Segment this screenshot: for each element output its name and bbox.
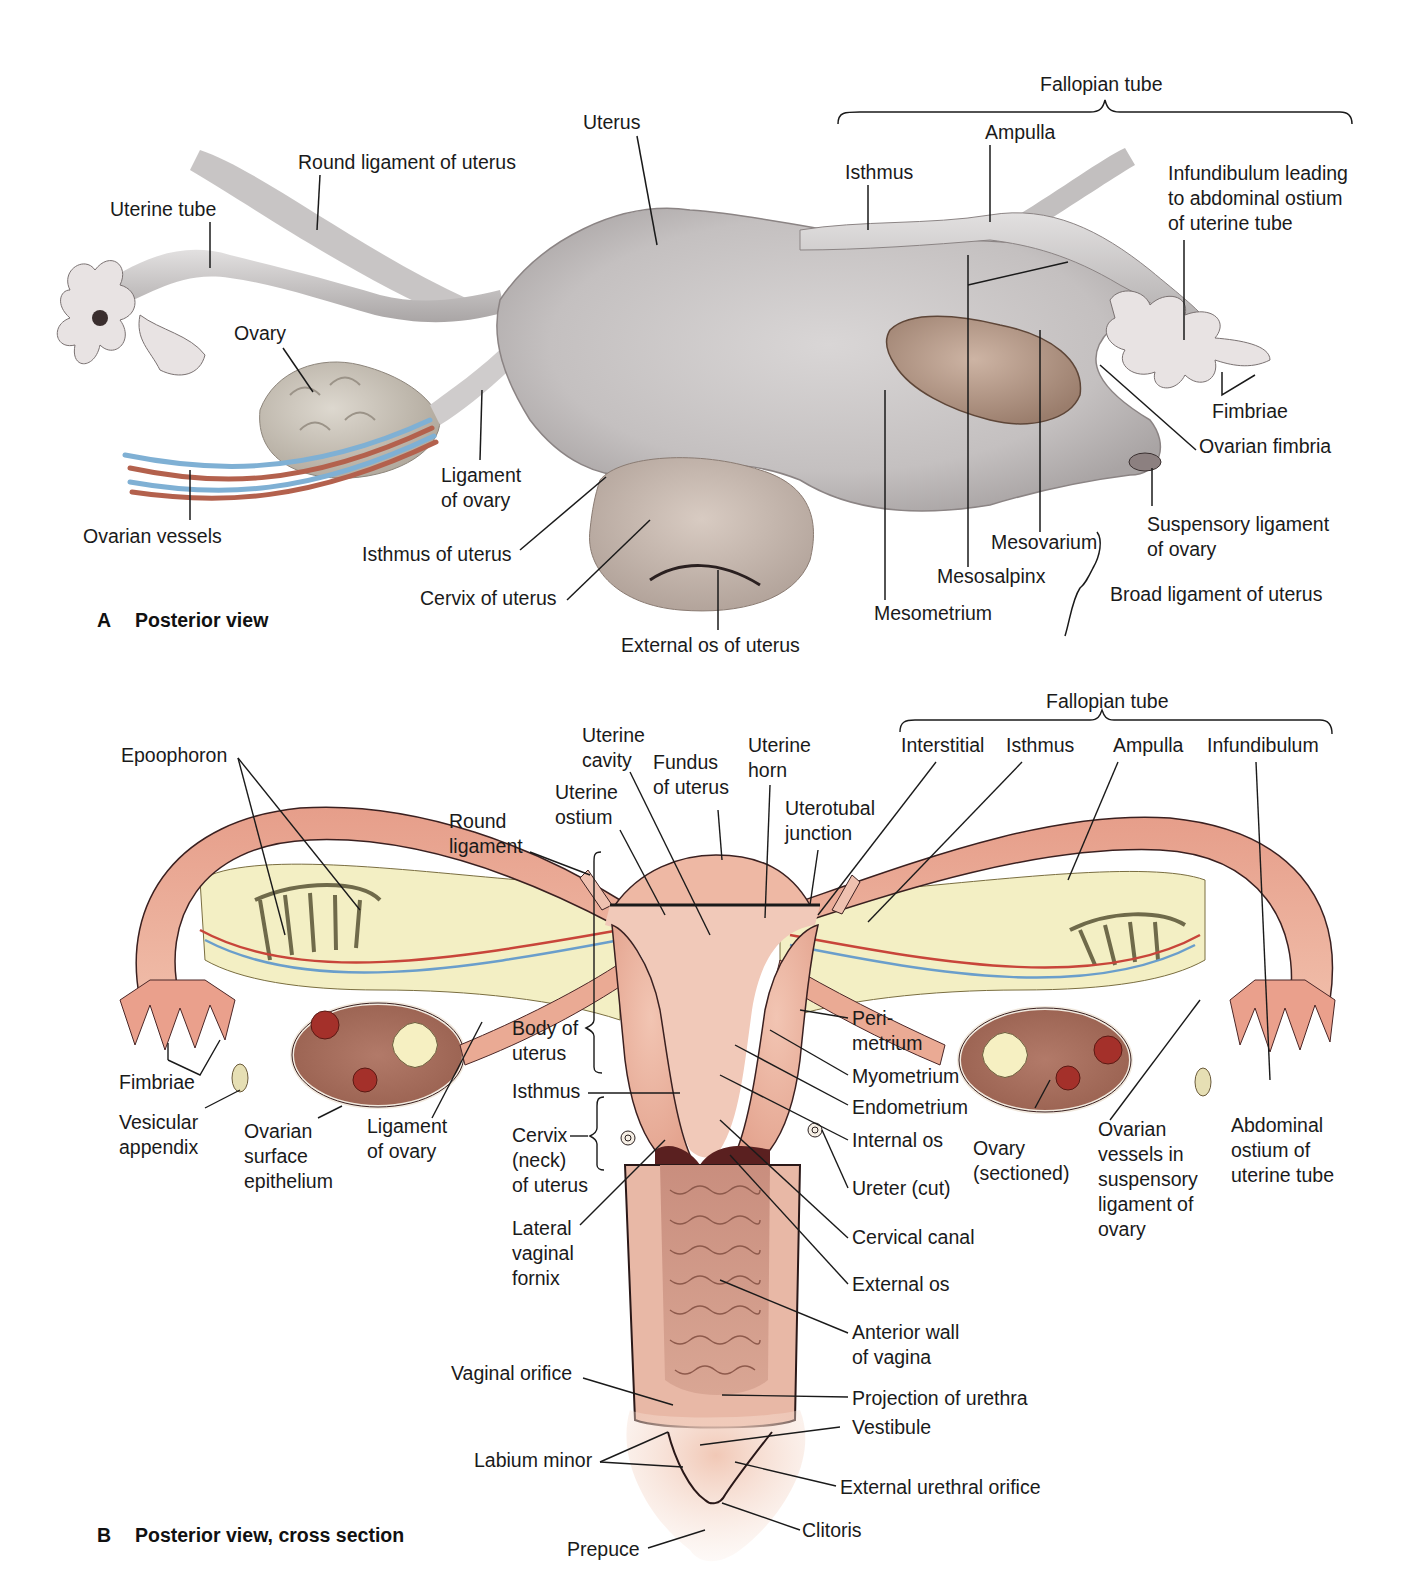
label-ovarian-surface-epithelium: Ovarian surface epithelium [244, 1119, 333, 1194]
label-cervical-canal: Cervical canal [852, 1225, 974, 1250]
label-uterotubal-junction: Uterotubal junction [785, 796, 875, 846]
label-isthmus-of-uterus: Isthmus of uterus [362, 542, 512, 567]
panel-a-letter: A [97, 609, 135, 632]
panel-a-title-text: Posterior view [135, 609, 268, 631]
label-mesosalpinx: Mesosalpinx [937, 564, 1045, 589]
label-uterine-ostium: Uterine ostium [555, 780, 618, 830]
label-anterior-wall-vagina: Anterior wall of vagina [852, 1320, 959, 1370]
label-clitoris: Clitoris [802, 1518, 862, 1543]
label-isthmus-tube-b: Isthmus [1006, 733, 1074, 758]
label-cervix: Cervix (neck) of uterus [512, 1123, 588, 1198]
label-ovarian-fimbria: Ovarian fimbria [1199, 434, 1331, 459]
panel-a-title: APosterior view [97, 609, 268, 632]
label-ovarian-vessels-a: Ovarian vessels [83, 524, 222, 549]
label-lateral-vaginal-fornix: Lateral vaginal fornix [512, 1216, 574, 1291]
label-external-urethral-orifice: External urethral orifice [840, 1475, 1041, 1500]
label-infundibulum-a: Infundibulum leading to abdominal ostium… [1168, 161, 1348, 236]
label-ureter: Ureter (cut) [852, 1176, 951, 1201]
label-uterine-horn: Uterine horn [748, 733, 811, 783]
label-vaginal-orifice: Vaginal orifice [451, 1361, 572, 1386]
label-ovary-a: Ovary [234, 321, 286, 346]
label-round-ligament-a: Round ligament of uterus [298, 150, 516, 175]
label-external-os-b: External os [852, 1272, 950, 1297]
panel-b-letter: B [97, 1524, 135, 1547]
label-vestibule: Vestibule [852, 1415, 931, 1440]
label-internal-os: Internal os [852, 1128, 943, 1153]
label-vesicular-appendix: Vesicular appendix [119, 1110, 198, 1160]
label-ligament-of-ovary-b: Ligament of ovary [367, 1114, 447, 1164]
label-ovarian-vessels-b: Ovarian vessels in suspensory ligament o… [1098, 1117, 1198, 1242]
label-labium-minor: Labium minor [474, 1448, 592, 1473]
label-prepuce: Prepuce [567, 1537, 640, 1562]
panel-b-title-text: Posterior view, cross section [135, 1524, 404, 1546]
label-ampulla-b: Ampulla [1113, 733, 1183, 758]
panel-b-title: BPosterior view, cross section [97, 1524, 404, 1547]
label-endometrium: Endometrium [852, 1095, 968, 1120]
label-mesovarium: Mesovarium [991, 530, 1097, 555]
label-ligament-of-ovary-a: Ligament of ovary [441, 463, 521, 513]
label-fallopian-tube-group-b: Fallopian tube [1046, 689, 1169, 714]
label-ampulla-a: Ampulla [985, 120, 1055, 145]
label-cervix-of-uterus: Cervix of uterus [420, 586, 557, 611]
label-epoophoron: Epoophoron [121, 743, 227, 768]
label-broad-ligament: Broad ligament of uterus [1110, 582, 1322, 607]
label-fallopian-tube-group-a: Fallopian tube [1040, 72, 1163, 97]
label-isthmus-a: Isthmus [845, 160, 913, 185]
label-uterine-tube-a: Uterine tube [110, 197, 216, 222]
label-uterus: Uterus [583, 110, 640, 135]
label-fimbriae-b: Fimbriae [119, 1070, 195, 1095]
label-fimbriae-a: Fimbriae [1212, 399, 1288, 424]
label-round-ligament-b: Round ligament [449, 809, 523, 859]
label-infundibulum-b: Infundibulum [1207, 733, 1319, 758]
label-fundus: Fundus of uterus [653, 750, 729, 800]
label-projection-urethra: Projection of urethra [852, 1386, 1028, 1411]
label-myometrium: Myometrium [852, 1064, 959, 1089]
label-perimetrium: Peri- metrium [852, 1006, 922, 1056]
label-uterine-cavity: Uterine cavity [582, 723, 645, 773]
label-mesometrium: Mesometrium [874, 601, 992, 626]
label-abdominal-ostium: Abdominal ostium of uterine tube [1231, 1113, 1334, 1188]
label-interstitial: Interstitial [901, 733, 984, 758]
label-external-os-of-uterus: External os of uterus [621, 633, 800, 658]
label-body-of-uterus: Body of uterus [512, 1016, 578, 1066]
label-isthmus-b: Isthmus [512, 1079, 580, 1104]
label-ovary-sectioned: Ovary (sectioned) [973, 1136, 1069, 1186]
label-suspensory-ligament: Suspensory ligament of ovary [1147, 512, 1329, 562]
